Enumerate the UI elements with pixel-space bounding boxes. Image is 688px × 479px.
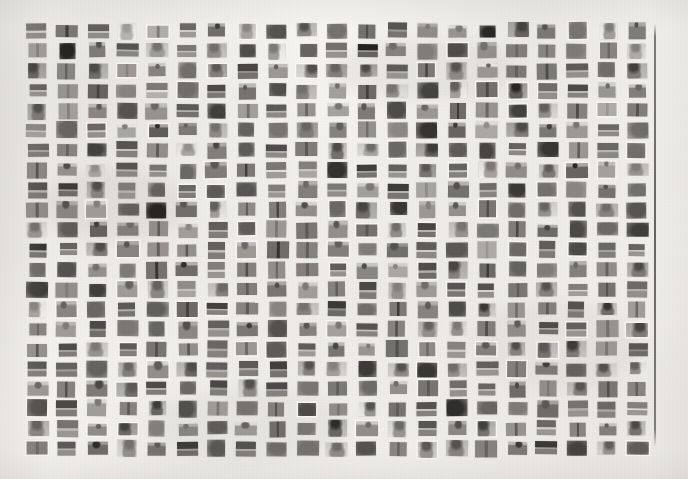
thumbnail-cell [412, 61, 442, 81]
person-thumbnail [117, 320, 138, 336]
thumbnail-cell [622, 140, 652, 160]
thumbnail-cell [22, 339, 52, 359]
person-thumbnail [357, 304, 376, 316]
person-thumbnail [357, 183, 378, 197]
thumbnail-cell [22, 220, 52, 240]
person-thumbnail [359, 361, 377, 377]
person-thumbnail [58, 441, 76, 455]
thumbnail-cell [412, 439, 442, 459]
thumbnail-cell [142, 21, 172, 41]
thumbnail-cell [172, 160, 202, 180]
thumbnail-cell [622, 299, 652, 319]
person-thumbnail [388, 122, 408, 137]
person-thumbnail [177, 45, 196, 57]
thumbnail-cell [322, 419, 352, 439]
thumbnail-cell [262, 160, 292, 180]
person-thumbnail [628, 302, 645, 318]
thumbnail-cell [532, 61, 562, 81]
person-thumbnail [270, 421, 286, 437]
thumbnail-cell [112, 439, 142, 459]
person-thumbnail [538, 45, 555, 58]
thumbnail-cell [202, 439, 232, 459]
person-thumbnail [117, 64, 136, 77]
person-thumbnail [87, 165, 105, 177]
person-thumbnail [597, 223, 618, 236]
person-thumbnail [448, 301, 465, 316]
person-thumbnail [147, 242, 168, 256]
person-thumbnail [238, 64, 258, 79]
thumbnail-cell [562, 240, 592, 260]
person-thumbnail [357, 144, 378, 156]
person-thumbnail [147, 361, 168, 378]
thumbnail-cell [202, 21, 232, 41]
person-thumbnail [419, 202, 435, 219]
thumbnail-cell [322, 180, 352, 200]
thumbnail-cell [352, 240, 382, 260]
thumbnail-cell [532, 260, 562, 280]
thumbnail-cell [52, 41, 82, 61]
person-thumbnail [26, 442, 47, 455]
person-thumbnail [86, 343, 107, 357]
person-thumbnail [27, 163, 47, 179]
thumbnail-cell [562, 379, 592, 399]
thumbnail-cell [202, 399, 232, 419]
thumbnail-cell [202, 240, 232, 260]
thumbnail-cell [322, 200, 352, 220]
thumbnail-cell [112, 101, 142, 121]
thumbnail-cell [532, 419, 562, 439]
person-thumbnail [535, 441, 557, 454]
thumbnail-cell [502, 81, 532, 101]
person-thumbnail [175, 202, 196, 217]
person-thumbnail [477, 241, 496, 258]
person-thumbnail [88, 24, 109, 38]
thumbnail-cell [562, 81, 592, 101]
thumbnail-cell [592, 240, 622, 260]
thumbnail-cell [412, 419, 442, 439]
person-thumbnail [118, 183, 135, 199]
person-thumbnail [29, 84, 46, 96]
thumbnail-cell [322, 240, 352, 260]
thumbnail-cell [292, 180, 322, 200]
thumbnail-cell [292, 359, 322, 379]
thumbnail-cell [622, 339, 652, 359]
thumbnail-cell [442, 140, 472, 160]
person-thumbnail [206, 303, 227, 315]
person-thumbnail [598, 125, 619, 137]
person-thumbnail [598, 243, 615, 258]
person-thumbnail [29, 324, 46, 336]
person-thumbnail [236, 182, 256, 196]
person-thumbnail [359, 344, 375, 356]
thumbnail-cell [442, 280, 472, 300]
person-thumbnail [148, 420, 164, 436]
thumbnail-cell [622, 200, 652, 220]
thumbnail-cell [622, 319, 652, 339]
thumbnail-cell [202, 419, 232, 439]
thumbnail-cell [352, 101, 382, 121]
person-thumbnail [269, 83, 286, 96]
person-thumbnail [568, 302, 584, 318]
person-thumbnail [267, 242, 289, 259]
person-thumbnail [566, 363, 586, 376]
person-thumbnail [417, 63, 434, 77]
person-thumbnail [389, 302, 406, 316]
person-thumbnail [298, 423, 316, 435]
thumbnail-cell [502, 41, 532, 61]
person-thumbnail [116, 141, 137, 157]
thumbnail-cell [262, 180, 292, 200]
person-thumbnail [389, 442, 406, 456]
thumbnail-cell [322, 339, 352, 359]
thumbnail-cell [502, 140, 532, 160]
thumbnail-cell [112, 160, 142, 180]
thumbnail-cell [292, 439, 322, 459]
thumbnail-cell [202, 160, 232, 180]
person-thumbnail [508, 321, 526, 337]
person-thumbnail [327, 362, 347, 376]
person-thumbnail [206, 362, 227, 377]
person-thumbnail [566, 122, 587, 138]
person-thumbnail [478, 421, 496, 436]
thumbnail-cell [172, 419, 202, 439]
thumbnail-cell [262, 399, 292, 419]
person-thumbnail [538, 303, 556, 315]
person-thumbnail [477, 224, 499, 238]
thumbnail-cell [382, 240, 412, 260]
